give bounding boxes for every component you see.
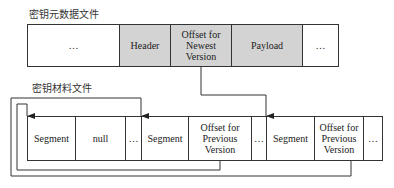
arrow-newest-to-segment-3 (201, 67, 266, 116)
arrow-offset1-to-segment-1 (17, 104, 220, 170)
connector-arrows (0, 0, 394, 188)
arrow-offset2-to-segment-2 (11, 98, 351, 176)
